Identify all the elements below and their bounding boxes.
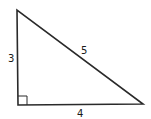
triangle-shape (17, 10, 143, 105)
right-angle-marker (18, 96, 27, 105)
horizontal-leg-label: 4 (77, 108, 83, 119)
right-triangle-diagram: 3 5 4 (0, 0, 151, 119)
hypotenuse-label: 5 (81, 45, 87, 56)
vertical-leg-label: 3 (8, 53, 14, 64)
